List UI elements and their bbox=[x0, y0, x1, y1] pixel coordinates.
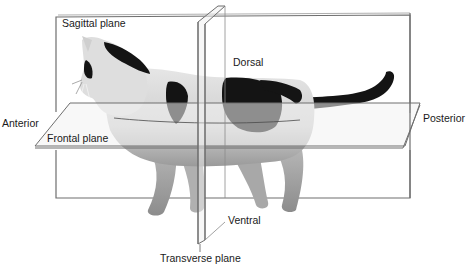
dorsal-label: Dorsal bbox=[233, 57, 263, 68]
sagittal-plane-label: Sagittal plane bbox=[62, 18, 126, 29]
anterior-label: Anterior bbox=[2, 118, 39, 129]
posterior-label: Posterior bbox=[423, 113, 465, 124]
transverse-plane-label: Transverse plane bbox=[160, 253, 241, 264]
frontal-plane-label: Frontal plane bbox=[47, 133, 108, 144]
ventral-label: Ventral bbox=[228, 215, 261, 226]
